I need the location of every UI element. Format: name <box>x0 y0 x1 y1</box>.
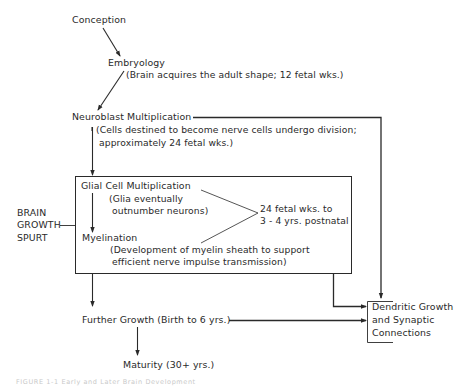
timespan-line-1: 24 fetal wks. to <box>260 203 333 215</box>
node-dendritic-line-2: and Synaptic <box>372 314 434 326</box>
node-neuroblast-note-1: (Cells destined to become nerve cells un… <box>96 124 357 136</box>
brain-growth-spurt-label-3: SPURT <box>17 232 48 244</box>
node-embryology-title: Embryology <box>108 57 165 69</box>
timespan-line-2: 3 - 4 yrs. postnatal <box>260 215 349 227</box>
arrow-box-dendritic <box>334 274 367 307</box>
node-myelination-note-1: (Development of myelin sheath to support <box>110 244 310 256</box>
node-conception: Conception <box>72 14 126 26</box>
arrow-embryology-neuroblast <box>98 71 124 110</box>
node-further-growth: Further Growth (Birth to 6 yrs.) <box>82 314 230 326</box>
node-myelination-title: Myelination <box>82 232 137 244</box>
node-maturity: Maturity (30+ yrs.) <box>123 359 214 371</box>
node-neuroblast-title: Neuroblast Multiplication <box>72 111 191 123</box>
node-glial-note-1: (Glia eventually <box>109 193 183 205</box>
node-neuroblast-note-2: approximately 24 fetal wks.) <box>99 137 233 149</box>
brain-growth-spurt-label-1: BRAIN <box>17 207 46 219</box>
node-embryology-note: (Brain acquires the adult shape; 12 feta… <box>126 69 344 81</box>
node-myelination-note-2: efficient nerve impulse transmission) <box>112 256 287 268</box>
figure-caption: FIGURE 1-1 Early and Later Brain Develop… <box>16 378 196 386</box>
node-dendritic-line-3: Connections <box>372 327 431 339</box>
timespan-line-glial <box>201 190 258 213</box>
node-glial-title: Glial Cell Multiplication <box>81 180 191 192</box>
brain-growth-spurt-label-2: GROWTH <box>17 219 61 231</box>
timespan-line-myelination <box>201 213 258 243</box>
node-dendritic-line-1: Dendritic Growth <box>372 301 453 313</box>
node-glial-note-2: outnumber neurons) <box>112 205 208 217</box>
arrow-conception-embryology <box>103 28 120 56</box>
